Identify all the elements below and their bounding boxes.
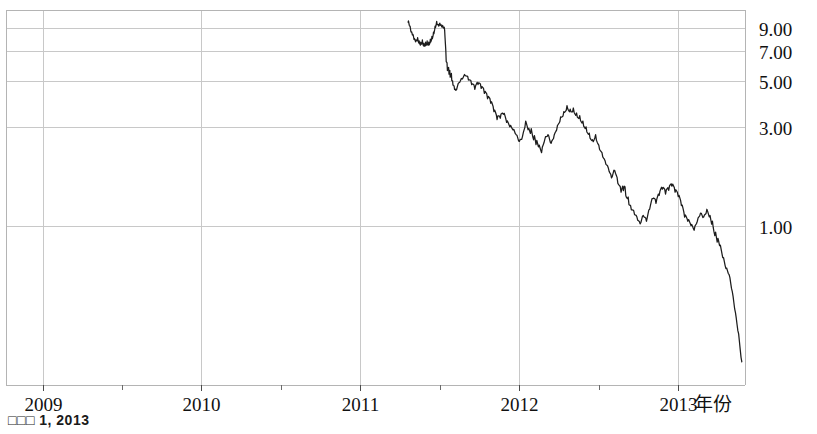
chart-frame [6,10,746,386]
x-axis-tick-label: 2012 [501,394,539,415]
figure-caption: □□□ 1, 2013 [8,412,89,428]
x-axis-tick-labels: 20092010201120122013 [25,394,698,415]
line-chart: 9.007.005.003.001.00 2009201020112012201… [0,0,817,434]
chart-series [408,21,742,362]
y-axis-tick-labels: 9.007.005.003.001.00 [759,19,792,238]
series-line-price [408,21,742,362]
x-axis-tick-label: 2013 [660,394,698,415]
chart-container: 9.007.005.003.001.00 2009201020112012201… [0,0,817,434]
x-axis-title: 年份 [694,394,732,415]
y-axis-tick-label: 1.00 [759,217,792,238]
x-axis-title-label: 年份 [694,394,732,415]
y-axis-tick-label: 5.00 [759,72,792,93]
y-axis-tick-label: 7.00 [759,42,792,63]
y-axis-tick-label: 3.00 [759,118,792,139]
y-axis-tick-label: 9.00 [759,19,792,40]
x-axis-tick-label: 2011 [342,394,379,415]
x-axis-tick-label: 2010 [183,394,221,415]
chart-gridlines [6,10,745,385]
